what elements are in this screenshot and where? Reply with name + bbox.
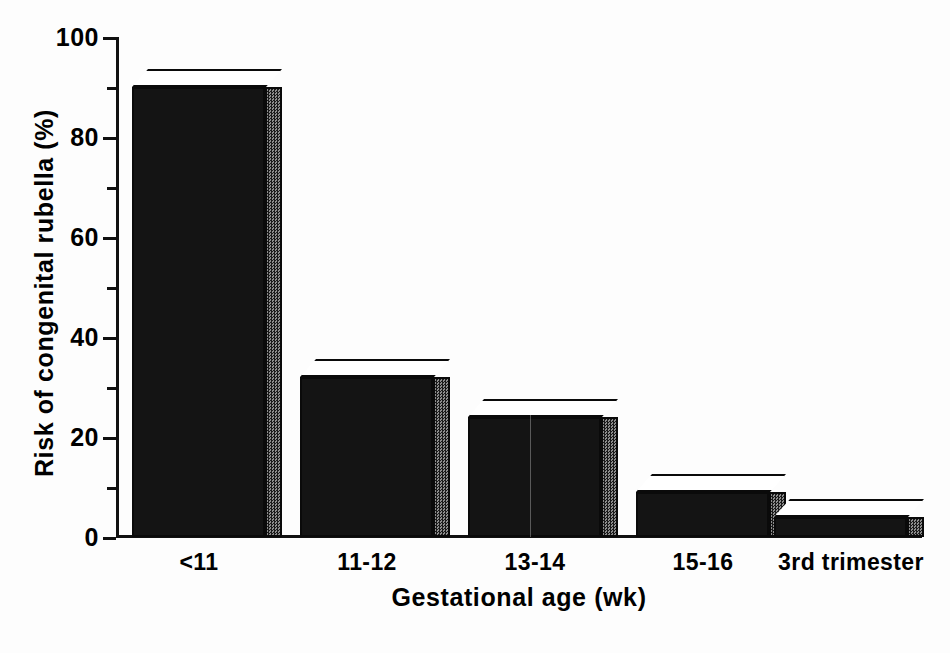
x-tick-label-lt11: <11 bbox=[180, 549, 219, 576]
bar-13-14 bbox=[468, 417, 601, 537]
bar-15-16 bbox=[636, 492, 769, 537]
bar-lt11 bbox=[132, 87, 265, 537]
bar-top-face bbox=[774, 499, 924, 517]
x-tick-label-3rd-trimester: 3rd trimester bbox=[778, 549, 924, 576]
y-tick-mark bbox=[103, 237, 116, 240]
y-tick-mark bbox=[103, 537, 116, 540]
y-axis-line bbox=[116, 37, 119, 538]
y-tick-label: 40 bbox=[70, 323, 99, 352]
y-minor-tick-90 bbox=[107, 87, 116, 90]
x-tick-label-15-16: 15-16 bbox=[673, 549, 734, 576]
y-axis-title: Risk of congenital rubella (%) bbox=[22, 13, 66, 573]
scan-artifact-line bbox=[530, 405, 531, 537]
figure-bar-chart: Risk of congenital rubella (%) 0 20 40 6… bbox=[0, 0, 950, 653]
bar-front-face bbox=[468, 417, 601, 537]
bar-front-face bbox=[636, 492, 769, 537]
bar-top-face bbox=[636, 474, 786, 492]
y-minor-tick-50 bbox=[107, 287, 116, 290]
y-tick-mark bbox=[103, 137, 116, 140]
y-tick-label: 100 bbox=[56, 23, 99, 52]
x-tick-label-13-14: 13-14 bbox=[505, 549, 566, 576]
y-tick-mark bbox=[103, 437, 116, 440]
y-tick-label: 20 bbox=[70, 423, 99, 452]
y-tick-mark bbox=[103, 37, 116, 40]
y-tick-mark bbox=[103, 337, 116, 340]
y-minor-tick-30 bbox=[107, 387, 116, 390]
bar-front-face bbox=[132, 87, 265, 537]
y-minor-tick-70 bbox=[107, 187, 116, 190]
bar-top-face bbox=[300, 359, 450, 377]
x-tick-label-11-12: 11-12 bbox=[337, 549, 397, 576]
y-tick-label: 80 bbox=[70, 123, 99, 152]
bar-side-face bbox=[907, 517, 924, 537]
y-tick-label: 60 bbox=[70, 223, 99, 252]
plot-area: 0 20 40 60 80 100 bbox=[116, 37, 922, 537]
bar-front-face bbox=[300, 377, 433, 537]
bar-top-face bbox=[132, 69, 282, 87]
bar-3rd-trimester bbox=[774, 517, 907, 537]
bar-side-face bbox=[601, 417, 618, 537]
bar-11-12 bbox=[300, 377, 433, 537]
y-tick-label: 0 bbox=[85, 523, 99, 552]
y-minor-tick-10 bbox=[107, 487, 116, 490]
bar-side-face bbox=[433, 377, 450, 537]
bar-front-face bbox=[774, 517, 907, 537]
bar-side-face bbox=[265, 87, 282, 537]
bar-top-face bbox=[468, 399, 618, 417]
x-axis-title: Gestational age (wk) bbox=[116, 583, 922, 612]
